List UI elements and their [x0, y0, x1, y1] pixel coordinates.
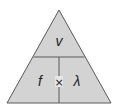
formula-triangle: v f × λ	[0, 0, 118, 110]
top-label-velocity: v	[56, 33, 64, 49]
bottom-right-label-wavelength: λ	[73, 73, 81, 89]
multiply-operator: ×	[54, 76, 63, 89]
